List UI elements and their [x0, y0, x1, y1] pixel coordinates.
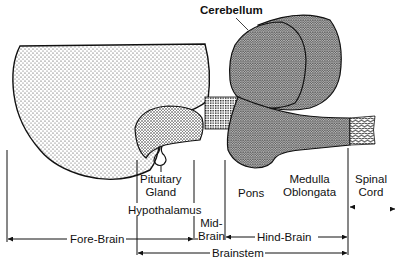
label-pituitary-gland: Pituitary Gland — [140, 173, 182, 199]
label-fore-brain: Fore-Brain — [70, 233, 124, 246]
hypothalamus-shape — [135, 106, 203, 158]
label-pituitary-line1: Pituitary — [140, 173, 182, 186]
label-medulla-line1: Medulla — [283, 173, 336, 186]
label-hypothalamus: Hypothalamus — [128, 204, 202, 217]
label-pons: Pons — [238, 187, 264, 200]
spinal-cord-shape — [350, 116, 375, 145]
label-mid-brain-line2: Brain — [198, 230, 225, 243]
label-pituitary-line2: Gland — [140, 186, 182, 199]
label-mid-brain-line1: Mid- — [198, 217, 225, 230]
label-cerebellum: Cerebellum — [200, 4, 263, 17]
label-spinal-cord: Spinal Cord — [355, 173, 387, 199]
cerebellum-front — [230, 22, 306, 108]
label-hind-brain: Hind-Brain — [257, 231, 311, 244]
label-medulla-oblongata: Medulla Oblongata — [283, 173, 336, 199]
label-spinal-line2: Cord — [355, 186, 387, 199]
label-brainstem: Brainstem — [212, 247, 264, 260]
label-spinal-line1: Spinal — [355, 173, 387, 186]
label-mid-brain: Mid- Brain — [198, 217, 225, 243]
label-medulla-line2: Oblongata — [283, 186, 336, 199]
